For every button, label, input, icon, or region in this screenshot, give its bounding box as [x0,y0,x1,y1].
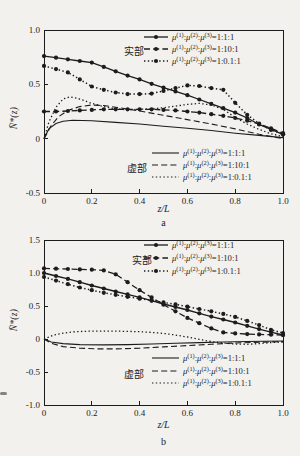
y-tick-label: 1.0 [29,268,41,278]
x-tick-label: 0.4 [134,408,146,418]
legend-marker-dot-icon [154,269,158,273]
legend-imag: 虚部μ(1):μ(2):μ(3)=1:1:1μ(1):μ(2):μ(3)=1:1… [124,352,252,388]
legend-entry-label: μ(1):μ(2):μ(3)=1:1:1 [182,352,245,363]
x-tick-label: 0 [42,408,47,418]
subfigure-label-b: b [44,436,283,447]
scan-artifact [0,392,7,395]
legend-marker-dot-icon [154,35,158,39]
series-imag-imag-1-1-1 [44,120,283,139]
x-axis-label-b: z/L [44,419,283,430]
y-tick-label: 1.0 [29,25,41,35]
legend-entry-label: μ(1):μ(2):μ(3)=1:0.1:1 [171,265,241,276]
x-tick-label: 0.8 [230,408,242,418]
chart-b: N̄*(z) 00.20.40.60.81.01.51.00.50-0.5-1.… [0,228,300,456]
legend-marker-dot-icon [154,59,158,63]
legend-marker-dot-icon [154,243,158,247]
y-tick-label: 0 [36,134,41,144]
series-real-real-1-10-1 [42,107,285,135]
x-tick-label: 1.0 [277,408,289,418]
legend-marker-dot-icon [154,256,158,260]
x-axis-label-a: z/L [44,203,283,214]
chart-a: N̄*(z) 00.20.40.60.81.01.00.50-0.5实部μ(1)… [0,0,300,228]
legend-title-real: 实部 [132,254,152,266]
legend-entry-label: μ(1):μ(2):μ(3)=1:1:1 [182,147,245,158]
y-tick-label: 1.5 [29,235,41,245]
y-tick-label: -0.5 [26,367,41,377]
legend-title-imag: 虚部 [124,368,144,380]
legend-imag: 虚部μ(1):μ(2):μ(3)=1:1:1μ(1):μ(2):μ(3)=1:1… [127,147,252,182]
y-tick-label: 0.5 [29,301,41,311]
legend-entry-label: μ(1):μ(2):μ(3)=1:10:1 [182,365,250,376]
legend-entry-label: μ(1):μ(2):μ(3)=1:0.1:1 [182,171,252,182]
y-tick-label: -1.0 [26,400,41,410]
y-tick-label: -0.5 [26,188,41,198]
legend-entry-label: μ(1):μ(2):μ(3)=1:10:1 [182,159,250,170]
legend-real: 实部μ(1):μ(2):μ(3)=1:1:1μ(1):μ(2):μ(3)=1:1… [124,31,241,66]
legend-entry-label: μ(1):μ(2):μ(3)=1:1:1 [171,31,234,42]
legend-entry-label: μ(1):μ(2):μ(3)=1:10:1 [171,252,239,263]
subfigure-label-a: a [44,217,283,228]
series-imag-imag-1-1-1 [44,339,283,345]
legend-entry-label: μ(1):μ(2):μ(3)=1:1:1 [171,239,234,250]
y-tick-label: 0.5 [29,79,41,89]
x-tick-label: 0.2 [86,408,97,418]
legend-title-real: 实部 [124,45,144,57]
legend-marker-dot-icon [154,47,158,51]
y-tick-label: 0 [36,334,41,344]
legend-real: 实部μ(1):μ(2):μ(3)=1:1:1μ(1):μ(2):μ(3)=1:1… [132,239,241,276]
legend-entry-label: μ(1):μ(2):μ(3)=1:10:1 [171,43,239,54]
series-real-real-1-0.1-1 [42,64,285,137]
series-real-real-1-1-1 [42,54,285,136]
legend-entry-label: μ(1):μ(2):μ(3)=1:0.1:1 [182,377,252,388]
plot-area-a: 00.20.40.60.81.01.00.50-0.5实部μ(1):μ(2):μ… [0,0,300,228]
figure: N̄*(z) 00.20.40.60.81.01.00.50-0.5实部μ(1)… [0,0,300,456]
x-tick-label: 0.6 [182,408,194,418]
legend-entry-label: μ(1):μ(2):μ(3)=1:0.1:1 [171,55,241,66]
legend-title-imag: 虚部 [127,162,147,174]
